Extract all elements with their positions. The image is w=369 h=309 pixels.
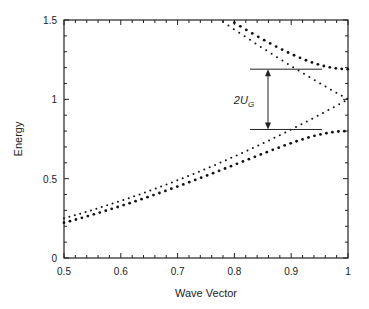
- arrow-up-icon: [265, 69, 271, 76]
- x-tick-label: 0.6: [114, 266, 128, 277]
- x-tick-label: 0.9: [284, 266, 298, 277]
- plot-frame: [64, 20, 348, 258]
- gap-label: 2UG: [233, 94, 254, 109]
- data-points: [63, 21, 350, 224]
- x-tick-label: 1: [345, 266, 351, 277]
- band-structure-chart: 0.50.60.70.80.9100.511.5 2UG Wave Vector…: [0, 0, 369, 309]
- x-tick-label: 0.8: [227, 266, 241, 277]
- y-tick-label: 0: [51, 253, 57, 264]
- y-tick-label: 1: [51, 94, 57, 105]
- y-tick-label: 0.5: [43, 174, 57, 185]
- y-tick-label: 1.5: [43, 15, 57, 26]
- y-axis-title: Energy: [12, 121, 24, 156]
- arrow-down-icon: [265, 122, 271, 129]
- x-tick-label: 0.5: [57, 266, 71, 277]
- x-tick-label: 0.7: [171, 266, 185, 277]
- axis-ticks: [64, 20, 348, 258]
- x-axis-title: Wave Vector: [175, 287, 237, 299]
- band-gap-annotation: 2UG: [233, 69, 322, 129]
- tick-labels: 0.50.60.70.80.9100.511.5: [43, 15, 351, 277]
